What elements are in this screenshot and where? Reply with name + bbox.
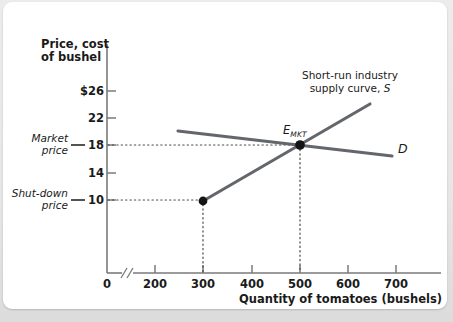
market-price-callout-line1: Market bbox=[0, 132, 68, 144]
supply-curve-note-line2-text: supply curve, S bbox=[310, 82, 391, 94]
equilibrium-label: EMKT bbox=[283, 124, 307, 140]
y-axis-title-line2: of bushel bbox=[41, 51, 109, 64]
x-tick-label-400: 400 bbox=[232, 278, 272, 291]
x-tick-label-600: 600 bbox=[328, 278, 368, 291]
y-axis-title-line1: Price, cost bbox=[41, 38, 109, 51]
y-axis-title: Price, cost of bushel bbox=[41, 38, 109, 64]
supply-curve bbox=[203, 104, 370, 201]
supply-curve-note-line2: supply curve, S bbox=[287, 82, 413, 95]
reference-lines bbox=[108, 145, 300, 272]
x-axis-title: Quantity of tomatoes (bushels) bbox=[239, 293, 442, 306]
equilibrium-point bbox=[295, 140, 305, 150]
market-price-callout-line2: price bbox=[0, 144, 68, 156]
x-tick-marks bbox=[155, 265, 396, 273]
shutdown-price-callout: Shut-down price bbox=[0, 187, 68, 211]
shutdown-price-callout-line2: price bbox=[0, 199, 68, 211]
x-origin-label: 0 bbox=[96, 278, 118, 291]
supply-curve-note-line1: Short-run industry bbox=[287, 69, 413, 82]
x-tick-label-700: 700 bbox=[376, 278, 416, 291]
market-price-callout: Market price bbox=[0, 132, 68, 156]
figure-root: Price, cost of bushel $26 22 18 14 10 Ma… bbox=[0, 0, 453, 322]
equilibrium-label-subscript: MKT bbox=[290, 130, 307, 139]
shutdown-point bbox=[199, 197, 208, 206]
y-tick-label-22: 22 bbox=[54, 112, 104, 125]
x-tick-label-300: 300 bbox=[183, 278, 223, 291]
supply-curve-note: Short-run industry supply curve, S bbox=[287, 69, 413, 94]
y-tick-label-14: 14 bbox=[54, 167, 104, 180]
shutdown-price-callout-line1: Shut-down bbox=[0, 187, 68, 199]
demand-curve-label: D bbox=[398, 142, 408, 156]
y-tick-label-26: $26 bbox=[54, 85, 104, 98]
x-tick-label-500: 500 bbox=[280, 278, 320, 291]
axis-break-icon bbox=[121, 268, 133, 278]
x-tick-label-200: 200 bbox=[135, 278, 175, 291]
